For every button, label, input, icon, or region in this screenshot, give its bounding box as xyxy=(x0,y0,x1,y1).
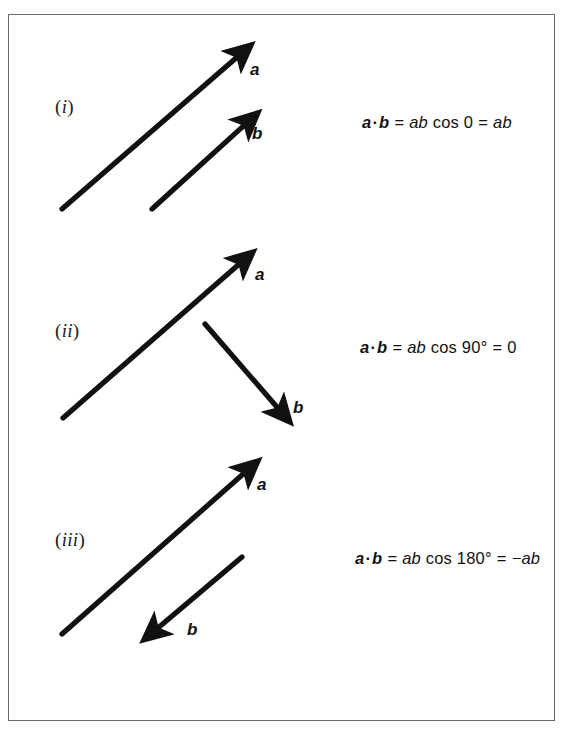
equation-panel-i: a·b=ab cos 0=ab xyxy=(362,113,512,132)
eq3-cos: cos xyxy=(426,549,452,567)
panel-label-ii-open: ( xyxy=(55,320,62,341)
eq1-dot-operator: · xyxy=(371,113,379,131)
eq2-equals-second: = xyxy=(487,338,507,356)
vector-label-a-panel-i: a xyxy=(250,60,259,80)
eq2-angle: 90 xyxy=(462,338,481,356)
panel-label-iii: (iii) xyxy=(55,529,85,551)
figure-root: (i) (ii) (iii) a b a b a b a·b=ab cos 0=… xyxy=(0,0,572,740)
vector-label-b-panel-i: b xyxy=(252,124,262,144)
vector-label-a-panel-iii: a xyxy=(257,475,266,495)
eq2-vector-b: b xyxy=(377,338,387,356)
eq3-vector-a: a xyxy=(355,549,364,567)
eq1-vector-a: a xyxy=(362,113,371,131)
eq2-dot-operator: · xyxy=(369,338,377,356)
panel-label-iii-open: ( xyxy=(55,529,62,550)
equation-panel-iii: a·b=ab cos 180°=−ab xyxy=(355,549,540,568)
eq3-equals-second: = xyxy=(492,549,512,567)
eq1-vector-b: b xyxy=(379,113,389,131)
panel-label-ii-close: ) xyxy=(73,320,80,341)
eq3-equals-first: = xyxy=(382,549,402,567)
eq1-equals-second: = xyxy=(473,113,493,131)
panel-label-i-open: ( xyxy=(55,96,62,117)
eq2-cos: cos xyxy=(431,338,457,356)
eq1-equals-first: = xyxy=(389,113,409,131)
eq1-cos: cos xyxy=(433,113,459,131)
eq3-magnitude-ab: ab xyxy=(402,549,421,567)
panel-label-i: (i) xyxy=(55,96,74,118)
eq1-result: ab xyxy=(493,113,512,131)
panel-label-iii-close: ) xyxy=(78,529,85,550)
panel-label-iii-numeral: iii xyxy=(62,529,79,550)
eq3-result: −ab xyxy=(512,549,541,567)
panel-label-i-close: ) xyxy=(67,96,74,117)
eq2-equals-first: = xyxy=(387,338,407,356)
panel-label-ii: (ii) xyxy=(55,320,79,342)
equation-panel-ii: a·b=ab cos 90°=0 xyxy=(360,338,517,357)
eq2-result: 0 xyxy=(507,338,516,356)
panel-label-ii-numeral: ii xyxy=(62,320,73,341)
eq1-magnitude-ab: ab xyxy=(409,113,428,131)
vector-label-b-panel-ii: b xyxy=(293,398,303,418)
eq3-angle: 180 xyxy=(457,549,485,567)
eq2-vector-a: a xyxy=(360,338,369,356)
eq3-dot-operator: · xyxy=(364,549,372,567)
vector-label-b-panel-iii: b xyxy=(187,620,197,640)
eq3-vector-b: b xyxy=(372,549,382,567)
eq2-magnitude-ab: ab xyxy=(407,338,426,356)
eq3-degree-symbol: ° xyxy=(485,549,492,567)
eq1-angle: 0 xyxy=(464,113,473,131)
vector-label-a-panel-ii: a xyxy=(255,265,264,285)
